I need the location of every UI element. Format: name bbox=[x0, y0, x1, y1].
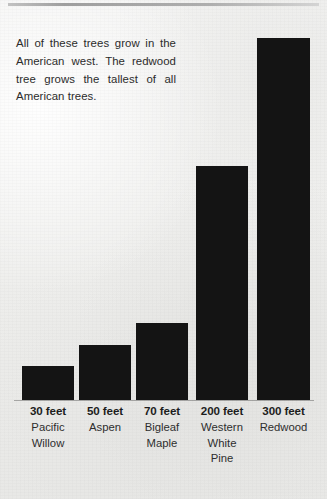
label-column-5: 300 feetRedwood bbox=[252, 404, 315, 436]
page-root: All of these trees grow in the American … bbox=[0, 0, 327, 499]
bar-category-label: Aspen bbox=[74, 420, 136, 436]
bar-bigleaf-maple bbox=[136, 323, 188, 400]
label-column-3: 70 feetBigleafMaple bbox=[131, 404, 193, 451]
bar-category-label: Redwood bbox=[252, 420, 315, 436]
label-column-4: 200 feetWesternWhitePine bbox=[191, 404, 253, 467]
bar-category-label: PacificWillow bbox=[17, 420, 79, 451]
bar-aspen bbox=[79, 345, 131, 400]
bar-value-label: 300 feet bbox=[252, 404, 315, 418]
bar-value-label: 70 feet bbox=[131, 404, 193, 418]
bar-value-label: 30 feet bbox=[17, 404, 79, 418]
bar-category-label: WesternWhitePine bbox=[191, 420, 253, 467]
bar-redwood bbox=[257, 38, 310, 400]
label-column-1: 30 feetPacificWillow bbox=[17, 404, 79, 451]
bar-value-label: 50 feet bbox=[74, 404, 136, 418]
bar-category-label: BigleafMaple bbox=[131, 420, 193, 451]
bar-chart: 30 feetPacificWillow50 feetAspen70 feetB… bbox=[0, 0, 327, 499]
chart-baseline bbox=[14, 400, 314, 401]
bar-pacific-willow bbox=[22, 366, 74, 400]
label-column-2: 50 feetAspen bbox=[74, 404, 136, 436]
bar-western-white-pine bbox=[196, 166, 248, 400]
bar-value-label: 200 feet bbox=[191, 404, 253, 418]
